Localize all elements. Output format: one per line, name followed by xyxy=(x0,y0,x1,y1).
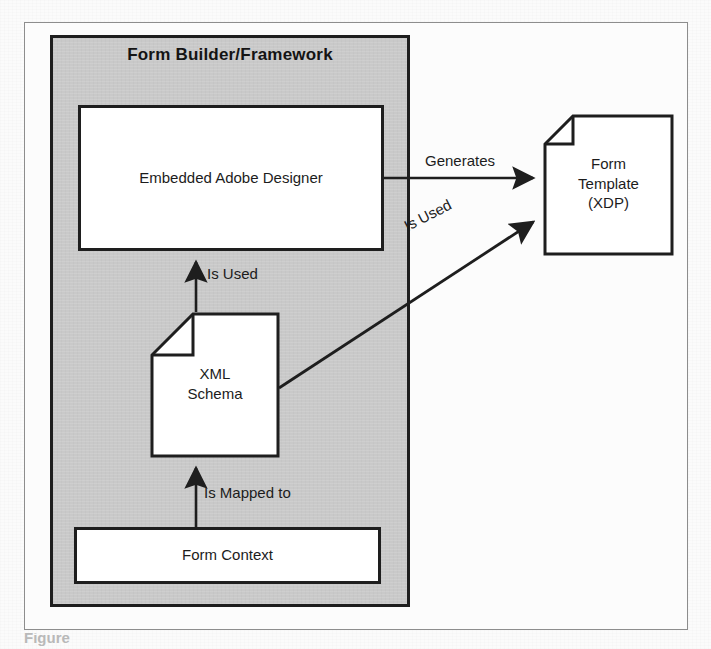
edge-label-is-used-vertical: Is Used xyxy=(207,265,258,282)
node-xml-schema[interactable]: XML Schema xyxy=(150,312,280,458)
diagram-page: Form Builder/Framework Embedded Adobe De… xyxy=(0,0,711,649)
node-embedded-adobe-designer[interactable]: Embedded Adobe Designer xyxy=(78,105,384,251)
form-builder-framework-title: Form Builder/Framework xyxy=(50,45,410,65)
node-xml-schema-label: XML Schema xyxy=(150,364,280,403)
node-form-template[interactable]: Form Template (XDP) xyxy=(543,114,674,256)
edge-label-is-mapped-to: Is Mapped to xyxy=(204,484,291,501)
node-form-template-label: Form Template (XDP) xyxy=(543,154,674,213)
node-form-context-label: Form Context xyxy=(182,546,273,565)
figure-caption-text: Figure xyxy=(24,633,70,646)
edge-label-generates: Generates xyxy=(425,152,495,169)
figure-caption-partial: Figure xyxy=(24,633,444,649)
node-embedded-adobe-designer-label: Embedded Adobe Designer xyxy=(139,169,322,188)
node-form-context[interactable]: Form Context xyxy=(74,527,381,584)
